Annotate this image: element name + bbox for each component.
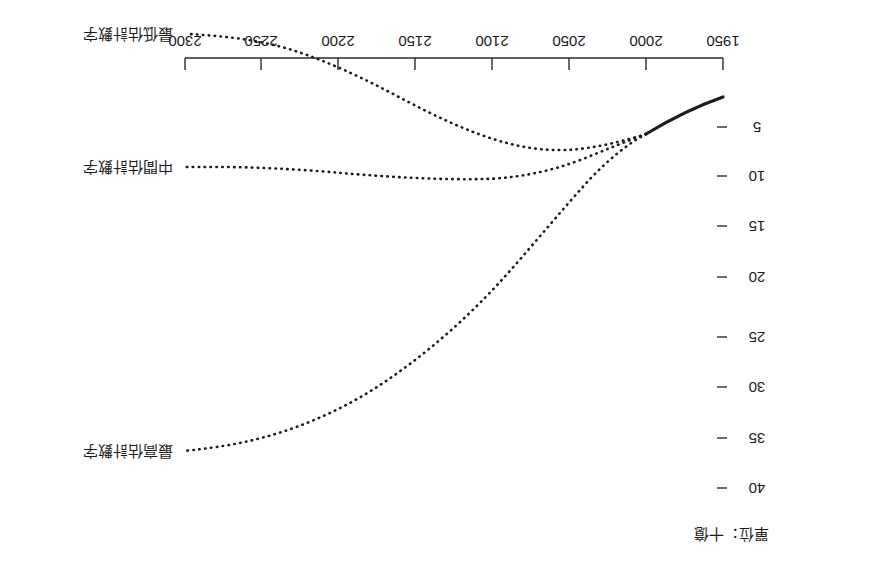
unit-note: 單位：十億 <box>694 525 769 543</box>
population-projection-chart: 1950 2000 2050 2100 2150 2200 2250 2300 … <box>0 0 889 564</box>
x-tick-label-1950: 1950 <box>706 33 739 50</box>
y-tick-label-25: 25 <box>749 329 766 346</box>
y-tick-label-5: 5 <box>753 119 761 136</box>
x-tick-label-2050: 2050 <box>552 33 585 50</box>
y-tick-label-10: 10 <box>749 168 766 185</box>
series-label-high-estimate: 最高估計數字 <box>83 442 173 460</box>
y-tick-label-35: 35 <box>749 430 766 447</box>
chart-svg: 1950 2000 2050 2100 2150 2200 2250 2300 … <box>0 0 889 564</box>
y-axis: 5 10 15 20 25 30 35 40 <box>717 119 765 497</box>
x-tick-label-2200: 2200 <box>321 33 354 50</box>
series-historical-line <box>646 97 723 134</box>
series-label-middle-estimate: 中間估計數字 <box>83 158 173 176</box>
series-low-estimate-line <box>189 34 646 150</box>
y-tick-label-20: 20 <box>749 269 766 286</box>
series-high-estimate-line <box>183 134 646 451</box>
x-tick-label-2150: 2150 <box>398 33 431 50</box>
y-tick-label-40: 40 <box>749 480 766 497</box>
y-tick-label-30: 30 <box>749 379 766 396</box>
y-tick-label-15: 15 <box>749 218 766 235</box>
series-label-low-estimate: 最低估計數字 <box>83 25 173 43</box>
figure-rotator: 1950 2000 2050 2100 2150 2200 2250 2300 … <box>0 0 889 564</box>
x-tick-label-2000: 2000 <box>629 33 662 50</box>
x-axis: 1950 2000 2050 2100 2150 2200 2250 2300 <box>168 33 739 70</box>
series-middle-estimate-line <box>183 134 646 179</box>
x-tick-label-2100: 2100 <box>475 33 508 50</box>
